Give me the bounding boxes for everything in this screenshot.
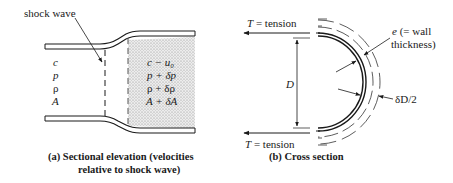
downstream-A: A + δA xyxy=(145,95,178,107)
panel-a-sectional-elevation: shock wave c p ρ A c − u₀ p + δp ρ + δρ … xyxy=(24,7,195,176)
upstream-p: p xyxy=(52,69,59,81)
expansion-arrow xyxy=(379,96,393,99)
tension-bottom-label: T = tension xyxy=(245,138,295,150)
caption-b: (b) Cross section xyxy=(269,151,344,163)
pipe-wall-inner xyxy=(318,36,363,128)
downstream-c: c − u₀ xyxy=(147,56,174,68)
expanded-wall-arc-2 xyxy=(318,20,380,144)
upstream-c: c xyxy=(53,56,58,68)
diameter-label: D xyxy=(285,78,294,90)
downstream-p: p + δp xyxy=(146,69,177,81)
thickness-arrow-outer xyxy=(364,38,390,55)
caption-a-line1: (a) Sectional elevation (velocities xyxy=(48,151,194,163)
radius-arrow xyxy=(338,89,360,95)
upstream-A: A xyxy=(51,95,59,107)
shock-wave-label: shock wave xyxy=(24,7,76,19)
panel-b-cross-section: T = tension T = tension D e (= wall thic… xyxy=(244,17,436,163)
wall-thickness-label-line2: thickness) xyxy=(391,38,436,51)
wall-thickness-label-line1: e (= wall xyxy=(392,25,431,38)
tension-top-label: T = tension xyxy=(247,17,297,29)
expanded-wall-arc-1 xyxy=(318,27,373,137)
caption-a-line2: relative to shock wave) xyxy=(78,164,181,176)
pipe-wall-outer xyxy=(318,33,366,131)
shock-wave-callout-arrow xyxy=(75,18,102,62)
diagram-canvas: shock wave c p ρ A c − u₀ p + δp ρ + δρ … xyxy=(0,0,453,183)
expansion-label: δD/2 xyxy=(395,93,417,105)
thickness-arrow-inner xyxy=(336,61,356,72)
upstream-rho: ρ xyxy=(53,82,59,94)
downstream-rho: ρ + δρ xyxy=(147,82,175,94)
